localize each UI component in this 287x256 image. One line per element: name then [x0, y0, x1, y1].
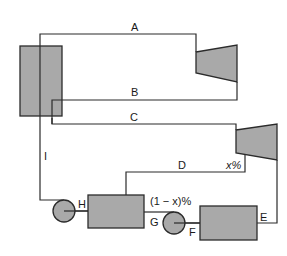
- high-pressure-turbine: [196, 45, 237, 82]
- label-f: F: [189, 226, 196, 238]
- label-h: H: [78, 198, 86, 210]
- label-d: D: [178, 159, 186, 171]
- power-cycle-diagram: A B C D x% E F G (1 − x)% H I: [0, 0, 287, 256]
- line-b: [52, 82, 237, 124]
- boiler: [20, 46, 62, 116]
- label-x-percent: x%: [225, 159, 242, 171]
- line-a: [40, 34, 196, 116]
- condenser: [200, 206, 257, 240]
- label-one-minus-x: (1 − x)%: [150, 195, 191, 207]
- low-pressure-turbine: [236, 124, 277, 160]
- label-e: E: [260, 211, 267, 223]
- label-a: A: [131, 21, 139, 33]
- label-c: C: [130, 111, 138, 123]
- line-c: [52, 118, 236, 130]
- label-g: G: [150, 216, 159, 228]
- feedwater-heater: [88, 195, 144, 228]
- label-b: B: [131, 86, 138, 98]
- label-i: I: [44, 150, 47, 162]
